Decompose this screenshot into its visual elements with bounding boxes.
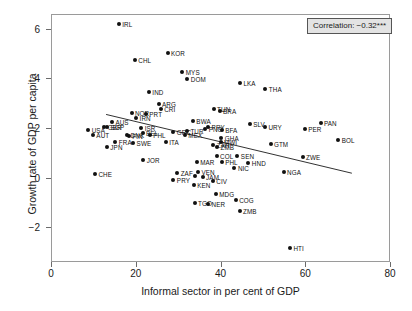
data-point-label: BEL: [146, 130, 158, 137]
data-point-label: AUT: [96, 131, 109, 138]
data-point-label: DOM: [191, 75, 206, 82]
data-point-label: IND: [152, 89, 163, 96]
data-point-label: MEX: [188, 132, 202, 139]
data-point-label: PRY: [177, 177, 190, 184]
data-point-label: PAN: [324, 119, 337, 126]
data-point-label: ZAF: [181, 169, 193, 176]
data-point-label: CHE: [98, 170, 112, 177]
data-point-label: CHL: [138, 57, 151, 64]
data-point: [203, 127, 207, 131]
data-point-label: COG: [239, 197, 254, 204]
data-point-label: ZMB: [243, 207, 257, 214]
data-point-label: ZWE: [306, 154, 320, 161]
x-tick-label: 60: [300, 268, 311, 279]
data-point: [336, 138, 340, 142]
data-point: [319, 121, 323, 125]
data-point-label: CIV: [216, 177, 227, 184]
data-point: [303, 127, 307, 131]
data-point: [180, 70, 184, 74]
data-point: [219, 136, 223, 140]
data-point: [191, 119, 195, 123]
data-point: [105, 145, 109, 149]
data-point-label: GTM: [274, 141, 288, 148]
data-point-label: CRI: [164, 105, 175, 112]
data-point: [131, 141, 135, 145]
data-point-label: MYS: [186, 68, 200, 75]
data-point-label: KOR: [171, 50, 185, 57]
data-point: [105, 125, 109, 129]
data-point: [214, 192, 218, 196]
data-point: [211, 179, 215, 183]
x-tick-mark: [305, 262, 306, 267]
data-point: [193, 201, 197, 205]
data-point: [282, 170, 286, 174]
data-point: [218, 109, 222, 113]
data-point: [248, 122, 252, 126]
data-point: [192, 183, 196, 187]
data-point-label: PER: [308, 125, 321, 132]
x-tick-label: 40: [215, 268, 226, 279]
data-point-label: SEN: [241, 153, 254, 160]
data-point-label: MDG: [219, 191, 234, 198]
data-point: [141, 158, 145, 162]
data-point: [215, 154, 219, 158]
data-point: [195, 160, 199, 164]
data-point-label: MAR: [200, 158, 214, 165]
data-point-label: BOL: [342, 137, 355, 144]
x-tick-mark: [390, 262, 391, 267]
y-axis-title: Growth rate of GDP per capita: [26, 59, 38, 229]
data-point-label: URY: [268, 123, 281, 130]
data-point: [206, 202, 210, 206]
data-point: [288, 246, 292, 250]
y-tick-mark: [46, 29, 51, 30]
data-point: [185, 77, 189, 81]
data-point: [139, 126, 143, 130]
data-point: [220, 128, 224, 132]
data-point: [171, 130, 175, 134]
data-point-label: NGA: [287, 169, 301, 176]
x-tick-mark: [51, 262, 52, 267]
data-point: [263, 87, 267, 91]
data-point-label: NIC: [238, 165, 249, 172]
data-point: [141, 131, 145, 135]
data-point-label: BWA: [196, 117, 210, 124]
data-point: [196, 170, 200, 174]
data-point: [133, 58, 137, 62]
y-tick-mark: [46, 178, 51, 179]
data-point-label: HTI: [293, 244, 303, 251]
data-point: [171, 178, 175, 182]
data-point-label: BFA: [225, 126, 237, 133]
y-tick-mark: [46, 78, 51, 79]
data-point-label: ITA: [169, 139, 179, 146]
data-point: [86, 128, 90, 132]
data-point: [269, 142, 273, 146]
data-point: [93, 172, 97, 176]
data-point-label: SGP: [111, 123, 125, 130]
data-point: [91, 133, 95, 137]
scatter-plot-figure: IRLKORCHLMYSDOMLKATHAINDARGCRITUNBRANORP…: [0, 0, 412, 311]
data-point-label: NER: [212, 200, 226, 207]
data-point-label: PRT: [149, 110, 162, 117]
data-point: [220, 160, 224, 164]
data-point: [147, 90, 151, 94]
x-tick-label: 20: [130, 268, 141, 279]
x-axis-title: Informal sector in per cent of GDP: [51, 285, 390, 297]
data-point-label: SWE: [137, 139, 152, 146]
data-point-label: PHL: [225, 159, 238, 166]
data-point-label: KEN: [197, 182, 210, 189]
data-point-label: BRA: [223, 107, 236, 114]
data-point: [201, 175, 205, 179]
data-point: [263, 125, 267, 129]
data-point-label: IRN: [140, 114, 151, 121]
data-point: [234, 198, 238, 202]
x-tick-mark: [221, 262, 222, 267]
data-point: [117, 22, 121, 26]
data-point: [175, 171, 179, 175]
data-point: [164, 140, 168, 144]
data-point: [212, 107, 216, 111]
data-point: [157, 102, 161, 106]
data-point-label: JOR: [147, 157, 160, 164]
x-tick-mark: [136, 262, 137, 267]
data-point-label: IRL: [122, 21, 132, 28]
data-point: [232, 166, 236, 170]
